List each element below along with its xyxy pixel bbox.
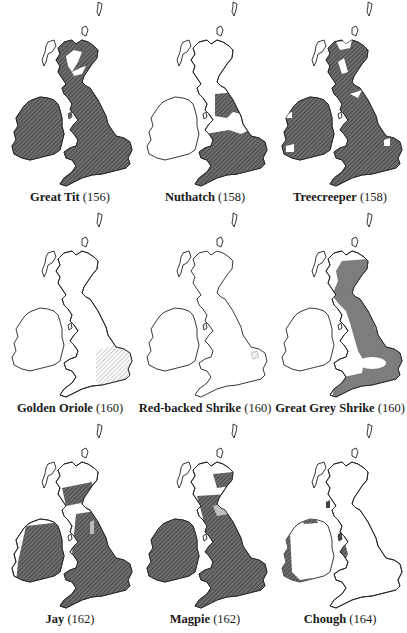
distribution-map [137,422,273,612]
map-caption: Red-backed Shrike (160) [137,401,273,416]
distribution-map [272,211,407,401]
map-nuthatch: Nuthatch (158) [137,0,273,211]
map-jay: Jay (162) [2,422,138,633]
distribution-map [137,211,273,401]
map-red-backed-shrike: Red-backed Shrike (160) [137,211,273,422]
map-chough: Chough (164) [272,422,407,633]
distribution-map [2,0,138,190]
map-caption: Golden Oriole (160) [2,401,138,416]
map-caption: Treecreeper (158) [272,190,407,205]
map-caption: Jay (162) [2,612,138,627]
distribution-map [272,0,407,190]
map-treecreeper: Treecreeper (158) [272,0,407,211]
map-caption: Magpie (162) [137,612,273,627]
map-caption: Great Tit (156) [2,190,138,205]
map-golden-oriole: Golden Oriole (160) [2,211,138,422]
map-caption: Nuthatch (158) [137,190,273,205]
map-grid: Great Tit (156) Nuthatch (158) Treecreep… [0,0,407,633]
distribution-map [272,422,407,612]
map-caption: Chough (164) [272,612,407,627]
map-magpie: Magpie (162) [137,422,273,633]
distribution-map [2,211,138,401]
map-caption: Great Grey Shrike (160) [272,401,407,416]
distribution-map [137,0,273,190]
map-great-grey-shrike: Great Grey Shrike (160) [272,211,407,422]
distribution-map [2,422,138,612]
map-great-tit: Great Tit (156) [2,0,138,211]
